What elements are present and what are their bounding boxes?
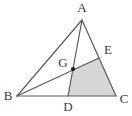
vertex-label-b: B [4,88,13,103]
geometry-diagram: A B C D E G [0,0,132,116]
vertex-label-a: A [77,0,87,15]
geometry-figure-container: A B C D E G [0,0,132,116]
vertex-label-d: D [63,99,72,114]
shaded-quadrilateral-gdce [68,58,116,96]
vertex-label-g: G [58,55,67,70]
vertex-label-e: E [104,42,112,57]
vertex-label-c: C [120,91,129,106]
point-marker-g [71,67,75,71]
